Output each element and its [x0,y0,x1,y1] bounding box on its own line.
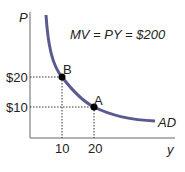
tick-qty-20: 20 [88,142,102,155]
tick-qty-10: 10 [55,142,69,155]
point-a-label: A [94,94,103,107]
ad-label: AD [158,116,176,129]
tick-price-20: $20 [6,71,28,84]
point-b-label: B [63,63,72,76]
tick-price-10: $10 [6,101,28,114]
equation-label: MV = PY = $200 [70,28,165,41]
p-axis-label: P [19,11,28,24]
y-axis-label: y [167,143,174,156]
